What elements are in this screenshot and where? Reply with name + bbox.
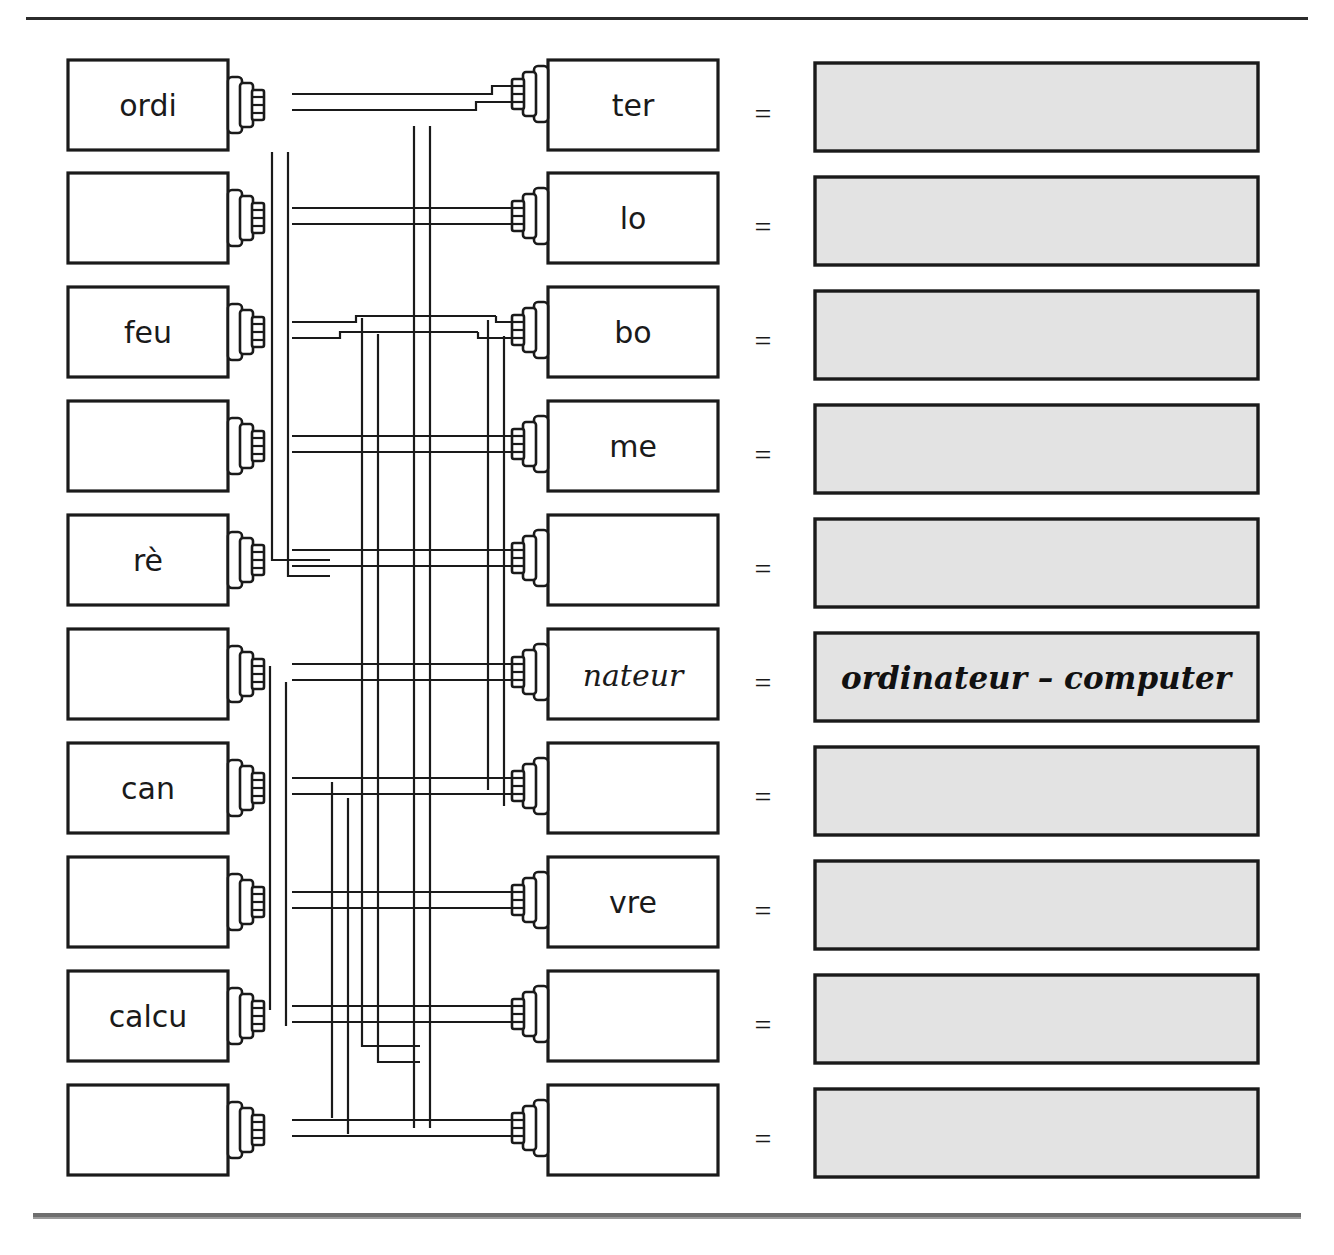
left-label-4: rè [133,543,163,578]
equals-column: = = = = = = = = = = [755,97,772,1155]
left-box-6[interactable]: can [68,743,264,833]
right-label-3: me [609,429,657,464]
right-box-5[interactable]: nateur [512,629,718,719]
answer-column: ordinateur – computer [815,63,1258,1177]
right-box-9[interactable] [512,1085,718,1175]
answer-box-5[interactable]: ordinateur – computer [815,633,1258,721]
wire-row-8 [292,1006,512,1022]
left-box-0[interactable]: ordi [68,60,264,150]
answer-box-2[interactable] [815,291,1258,379]
right-box-8[interactable] [512,971,718,1061]
right-box-6[interactable] [512,743,718,833]
equals-sign-4: = [755,552,772,585]
right-word-column: ter lo bo me [512,60,718,1175]
equals-sign-8: = [755,1008,772,1041]
answer-box-7[interactable] [815,861,1258,949]
worksheet-page: ordi feu rè [0,0,1334,1255]
answer-box-6[interactable] [815,747,1258,835]
equals-sign-9: = [755,1122,772,1155]
answer-text-5: ordinateur – computer [841,660,1234,696]
left-label-2: feu [124,315,172,350]
wire-row-0 [292,86,512,110]
right-label-0: ter [612,88,655,123]
equals-sign-3: = [755,438,772,471]
left-box-1[interactable] [68,173,264,263]
wire-row-2 [292,316,512,338]
equals-sign-7: = [755,894,772,927]
wire-row-1 [292,208,512,224]
equals-sign-6: = [755,780,772,813]
left-box-3[interactable] [68,401,264,491]
equals-sign-5: = [755,666,772,699]
equals-sign-2: = [755,324,772,357]
right-box-7[interactable]: vre [512,857,718,947]
equals-sign-0: = [755,97,772,130]
wire-bundle [270,86,512,1136]
left-label-8: calcu [109,999,188,1034]
bottom-divider-rule-shadow [33,1217,1301,1219]
right-box-3[interactable]: me [512,401,718,491]
left-box-8[interactable]: calcu [68,971,264,1061]
right-label-2: bo [614,315,651,350]
left-box-2[interactable]: feu [68,287,264,377]
wire-row-5 [292,664,512,680]
wire-row-6 [292,778,512,794]
left-box-4[interactable]: rè [68,515,264,605]
right-label-1: lo [620,201,647,236]
right-box-0[interactable]: ter [512,60,718,150]
answer-box-0[interactable] [815,63,1258,151]
left-label-6: can [121,771,175,806]
wire-row-7 [292,892,512,908]
wire-row-4 [292,550,512,566]
left-box-7[interactable] [68,857,264,947]
right-box-2[interactable]: bo [512,287,718,377]
equals-sign-1: = [755,210,772,243]
answer-box-1[interactable] [815,177,1258,265]
left-word-column: ordi feu rè [68,60,264,1175]
answer-box-8[interactable] [815,975,1258,1063]
right-box-1[interactable]: lo [512,173,718,263]
right-label-5: nateur [583,658,685,693]
right-box-4[interactable] [512,515,718,605]
wire-row-3 [292,436,512,452]
left-box-9[interactable] [68,1085,264,1175]
wire-crossing-routes [270,126,504,1134]
word-matching-diagram: ordi feu rè [0,0,1334,1255]
answer-box-4[interactable] [815,519,1258,607]
right-label-7: vre [609,885,657,920]
left-label-0: ordi [119,88,177,123]
answer-box-3[interactable] [815,405,1258,493]
wire-row-9 [292,1120,512,1136]
left-box-5[interactable] [68,629,264,719]
answer-box-9[interactable] [815,1089,1258,1177]
